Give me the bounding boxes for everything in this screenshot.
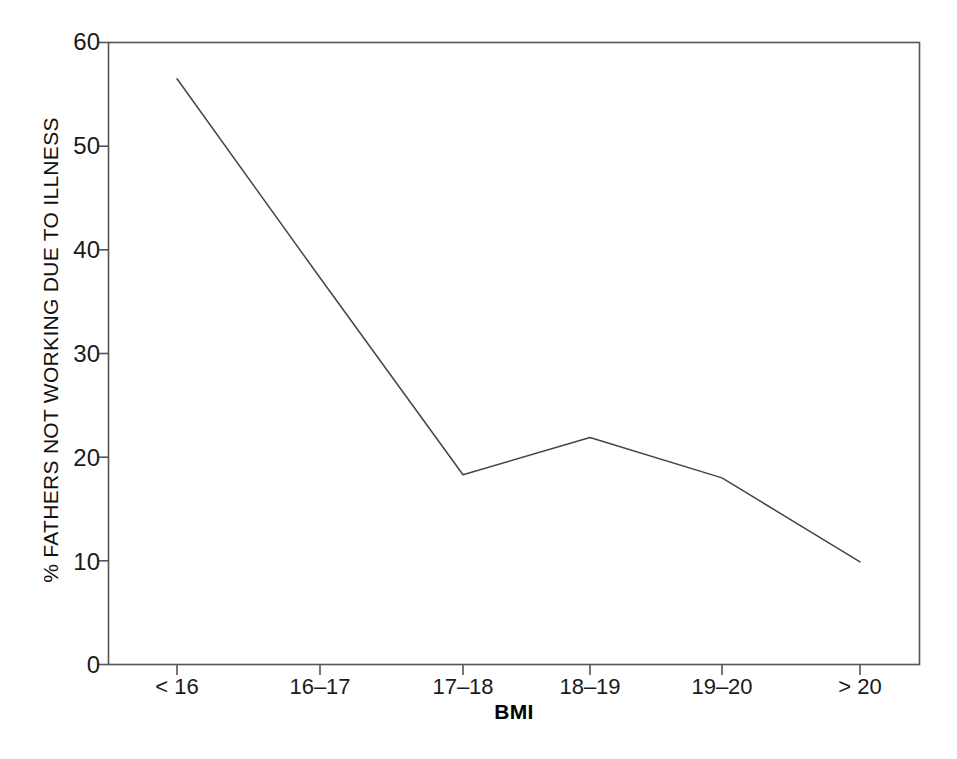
data-series-line <box>177 79 860 562</box>
plot-area <box>0 0 957 759</box>
x-axis-ticks <box>177 665 860 676</box>
chart-figure: % FATHERS NOT WORKING DUE TO ILLNESS 60 … <box>0 0 957 759</box>
plot-frame <box>109 43 920 665</box>
y-axis-ticks <box>99 43 109 665</box>
